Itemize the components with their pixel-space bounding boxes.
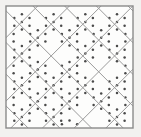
stipple-dot [76, 40, 79, 43]
stipple-dot [21, 13, 24, 16]
stipple-dot [37, 76, 40, 79]
stipple-dot [52, 13, 55, 16]
stipple-dot [84, 76, 87, 79]
stipple-dot [68, 92, 71, 95]
stipple-dot [13, 120, 16, 123]
stipple-dot [44, 33, 47, 36]
stipple-dot [60, 17, 63, 20]
stipple-dot [13, 56, 16, 59]
stipple-dot [92, 56, 95, 59]
stipple-dot [45, 88, 48, 91]
stipple-dot [92, 24, 95, 27]
stipple-dot [124, 104, 127, 107]
stipple-dot [123, 56, 126, 59]
stipple-dot [52, 92, 55, 95]
stipple-dot [60, 88, 63, 91]
stipple-dot [68, 119, 71, 122]
figure-root: Square frame enclosing a 45-degree diago… [0, 0, 141, 137]
stipple-dot [100, 108, 103, 111]
stipple-dot [76, 104, 79, 107]
stipple-dot [92, 104, 95, 107]
stipple-dot [108, 120, 111, 123]
stipple-dot [108, 56, 111, 59]
stipple-dot [76, 24, 79, 27]
stipple-dot [52, 123, 55, 126]
stipple-dot [76, 56, 79, 59]
stipple-dot [13, 88, 16, 91]
stipple-dot [108, 24, 111, 27]
stipple-dot [60, 24, 63, 27]
stipple-dot [108, 33, 111, 36]
stipple-dot [28, 120, 31, 123]
stipple-dot [123, 88, 126, 91]
stipple-dot [44, 96, 47, 99]
stipple-dot [21, 28, 24, 31]
stipple-dot [12, 40, 15, 43]
stipple-dot [28, 17, 31, 20]
stipple-dot [116, 28, 119, 31]
stipple-dot [60, 80, 63, 83]
stipple-dot [12, 96, 15, 99]
stipple-dot [68, 76, 71, 79]
stipple-dot [124, 72, 127, 75]
stipple-dot [21, 108, 24, 111]
stipple-dot [28, 49, 31, 52]
stipple-dot [123, 112, 126, 115]
stipple-dot [29, 40, 32, 43]
stipple-dot [61, 123, 64, 126]
stipple-dot [60, 112, 63, 115]
stipple-dot [123, 17, 126, 20]
stipple-dot [12, 72, 15, 75]
stipple-dot [116, 60, 119, 63]
stipple-dot [116, 13, 119, 16]
stipple-dot [44, 64, 47, 67]
stipple-dot [84, 28, 87, 31]
stipple-dot [12, 33, 15, 36]
stipple-dot [21, 60, 24, 63]
stipple-dot [68, 29, 71, 32]
stipple-dot [76, 72, 79, 75]
stipple-dot [52, 28, 55, 31]
stipple-dot [100, 92, 103, 95]
stipple-dot [84, 92, 87, 95]
stipple-dot [44, 40, 47, 43]
stipple-dot [37, 61, 40, 64]
stipple-dot [52, 76, 55, 79]
stipple-dot [29, 72, 32, 75]
stipple-dot [76, 96, 79, 99]
stipple-dot [116, 123, 119, 126]
stipple-dot [76, 33, 79, 36]
stipple-dot [108, 96, 111, 99]
stipple-dot [37, 29, 40, 32]
stipple-dot [28, 80, 31, 83]
stipple-dot [12, 104, 15, 107]
stipple-dot [116, 92, 119, 95]
stipple-dot [28, 88, 31, 91]
stipple-dot [84, 13, 87, 16]
stipple-dot [116, 76, 119, 79]
stipple-dot [68, 108, 71, 111]
stipple-dot [123, 49, 126, 52]
stipple-dot [108, 88, 111, 91]
stipple-dot [29, 104, 32, 107]
stipple-dot [60, 120, 63, 123]
stipple-dot [108, 104, 111, 107]
stipple-dot [68, 44, 71, 47]
stipple-dot [28, 112, 31, 115]
stipple-dot [21, 92, 24, 95]
stipple-dot [61, 72, 64, 75]
stipple-dot [100, 44, 103, 47]
stipple-dot [123, 24, 126, 27]
stipple-dot [92, 40, 95, 43]
stipple-dot [68, 61, 71, 64]
stipple-dot [84, 45, 87, 48]
stipple-dot [21, 123, 24, 126]
stipple-dot [92, 49, 95, 52]
stipple-dot [108, 40, 111, 43]
stipple-dot [61, 104, 64, 107]
stipple-dot [116, 108, 119, 111]
stipple-dot [123, 80, 126, 83]
stipple-dot [21, 76, 24, 79]
stipple-dot [92, 80, 95, 83]
stipple-dot [84, 60, 87, 63]
